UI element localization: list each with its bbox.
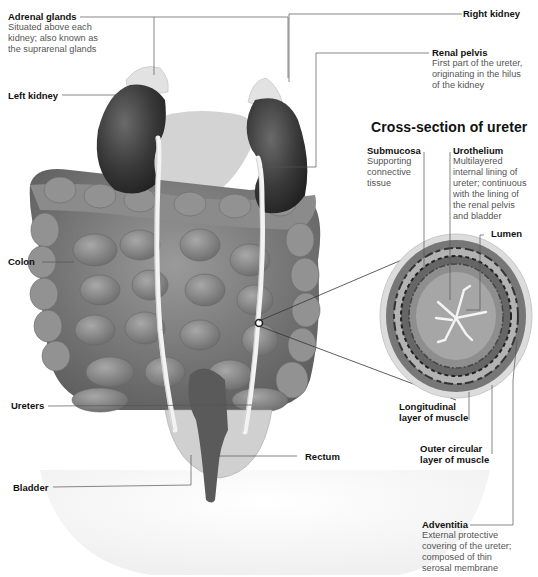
label-lumen: Lumen [491, 228, 522, 239]
cross-section-title: Cross-section of ureter [371, 119, 527, 135]
label-renal-pelvis: Renal pelvis First part of the ureter, o… [432, 47, 522, 91]
label-longitudinal-muscle: Longitudinal layer of muscle [399, 401, 468, 423]
label-right-kidney: Right kidney [463, 8, 520, 19]
label-outer-circular-muscle: Outer circular layer of muscle [420, 443, 489, 465]
section-marker [256, 320, 263, 327]
label-colon: Colon [8, 256, 35, 267]
label-adventitia: Adventitia External protective covering … [422, 519, 511, 574]
label-ureters: Ureters [11, 400, 44, 411]
label-adrenal-glands: Adrenal glands Situated above each kidne… [8, 11, 98, 55]
ureter-cross-section [380, 234, 532, 398]
ureter-anatomy-diagram: Adrenal glands Situated above each kidne… [0, 0, 538, 577]
label-submucosa: Submucosa Supporting connective tissue [367, 145, 421, 189]
right-kidney-shape [247, 98, 308, 213]
label-bladder: Bladder [13, 482, 48, 493]
label-urothelium: Urothelium Multilayered internal lining … [453, 145, 527, 222]
label-left-kidney: Left kidney [8, 90, 58, 101]
left-kidney-shape [97, 85, 166, 194]
label-rectum: Rectum [305, 451, 340, 462]
